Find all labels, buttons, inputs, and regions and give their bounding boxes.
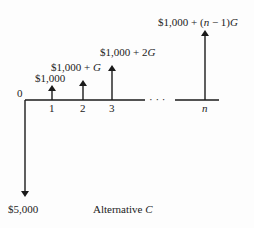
outflow-label: $5,000	[8, 203, 39, 215]
amount-label-1: $1,000	[35, 72, 66, 84]
amount-label-2-g: G	[93, 61, 101, 73]
diagram-title-word: Alternative	[93, 203, 145, 215]
amount-label-3-prefix: $1,000 + 2	[100, 46, 147, 58]
amount-label-n-prefix: $1,000 + (	[158, 16, 204, 29]
diagram-title-letter: C	[145, 203, 153, 215]
amount-label-n-g: G	[230, 16, 238, 28]
origin-label: 0	[17, 87, 23, 99]
period-label-3: 3	[109, 102, 115, 114]
amount-label-2-prefix: $1,000 +	[51, 61, 93, 73]
cash-flow-diagram: · · · 0 $5,000 1 $1,000 2 $1,000 + G 3 $…	[0, 0, 254, 228]
ellipsis: · · ·	[149, 93, 166, 105]
amount-label-3: $1,000 + 2G	[100, 46, 155, 58]
period-label-1: 1	[49, 102, 55, 114]
amount-label-2: $1,000 + G	[51, 61, 101, 73]
period-label-2: 2	[80, 102, 86, 114]
amount-label-n: $1,000 + (n − 1)G	[158, 16, 238, 29]
diagram-title: Alternative C	[93, 203, 153, 215]
amount-label-n-mid: − 1)	[209, 16, 230, 29]
period-label-n: n	[202, 102, 208, 114]
amount-label-3-g: G	[147, 46, 155, 58]
diagram-svg: · · · 0 $5,000 1 $1,000 2 $1,000 + G 3 $…	[0, 0, 254, 228]
